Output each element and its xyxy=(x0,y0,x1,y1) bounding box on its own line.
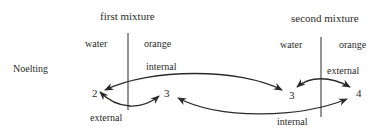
first-water-value: 2 xyxy=(92,88,98,99)
row-label-noelting: Noelting xyxy=(13,64,48,74)
first-orange-value: 3 xyxy=(164,88,170,99)
internal-bottom-label: internal xyxy=(277,117,308,127)
first-mixture-orange-label: orange xyxy=(144,39,171,49)
internal-top-arrow xyxy=(105,74,282,91)
external-second-arrow xyxy=(297,79,350,87)
external-first-label: external xyxy=(90,113,122,123)
second-orange-value: 4 xyxy=(356,88,362,99)
external-second-label: external xyxy=(327,66,359,76)
internal-top-label: internal xyxy=(146,62,177,72)
second-mixture-title: second mixture xyxy=(291,13,359,24)
second-mixture-orange-label: orange xyxy=(339,40,366,50)
external-first-arrow xyxy=(100,92,159,106)
second-mixture-water-label: water xyxy=(280,40,302,50)
internal-bottom-arrow xyxy=(178,98,347,114)
first-mixture-water-label: water xyxy=(85,39,107,49)
first-mixture-title: first mixture xyxy=(100,11,155,22)
second-water-value: 3 xyxy=(289,90,295,101)
